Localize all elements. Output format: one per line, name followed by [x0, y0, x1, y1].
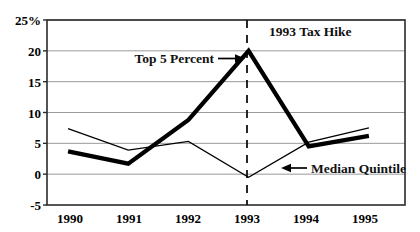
y-axis-label-20: 20	[28, 44, 41, 59]
y-axis-label-10: 10	[28, 106, 41, 121]
annotation-1993-tax-hike-label: 1993 Tax Hike	[269, 24, 352, 39]
y-axis-label-25: 25%	[15, 13, 41, 28]
x-axis-label-1995: 1995	[352, 211, 379, 226]
x-axis-label-1990: 1990	[57, 211, 83, 226]
chart-container: 25% 20 15 10 5 0 -5 1990 1991 1992 1993 …	[0, 0, 420, 232]
x-axis-label-1991: 1991	[116, 211, 142, 226]
x-axis-label-1994: 1994	[293, 211, 320, 226]
y-axis-label-0: 0	[35, 167, 42, 182]
annotation-median-quintile-label: Median Quintile	[311, 161, 406, 176]
annotation-1993-tax-hike: 1993 Tax Hike	[269, 24, 352, 39]
y-axis-label-5: 5	[35, 136, 42, 151]
x-axis-label-1992: 1992	[175, 211, 201, 226]
annotation-top-5-percent-label: Top 5 Percent	[135, 51, 215, 66]
line-chart: 25% 20 15 10 5 0 -5 1990 1991 1992 1993 …	[0, 0, 420, 232]
x-axis-label-1993: 1993	[234, 211, 261, 226]
y-axis-label-15: 15	[28, 75, 42, 90]
y-axis-label-neg5: -5	[30, 198, 41, 213]
